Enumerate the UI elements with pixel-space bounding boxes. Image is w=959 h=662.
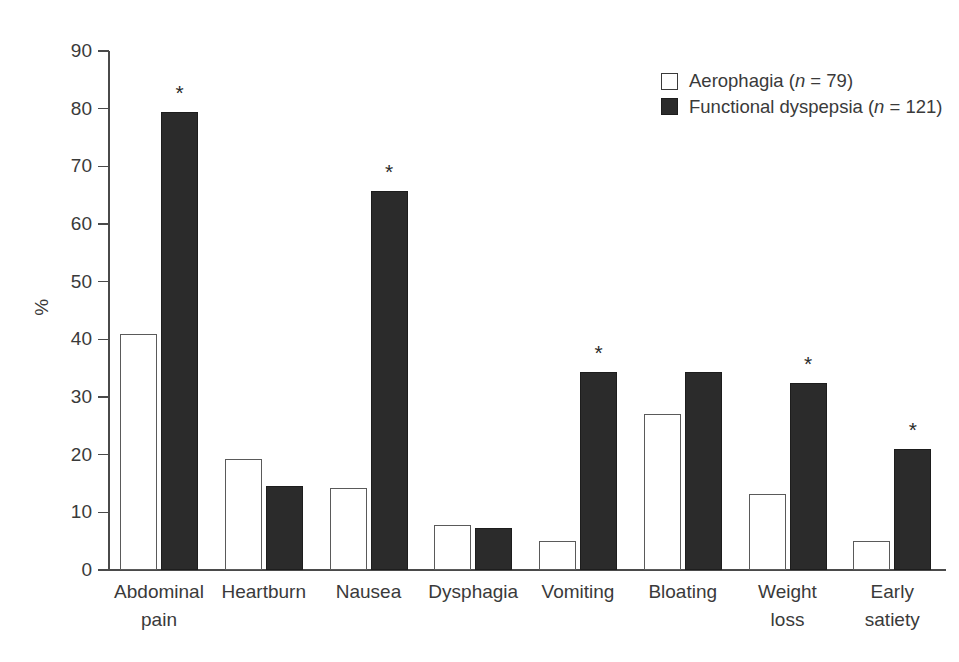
x-tick-label-line1: Early — [871, 581, 914, 602]
legend-swatch-filled-icon — [661, 98, 678, 115]
y-tick-label: 50 — [46, 272, 92, 291]
bar-group — [225, 51, 318, 570]
legend-n-symbol: n — [795, 70, 805, 91]
plot-area: ***** — [108, 51, 946, 570]
y-tick-label: 40 — [46, 329, 92, 348]
significance-asterisk: * — [371, 161, 408, 182]
legend-n-value: = 121) — [884, 96, 942, 117]
bar-functional-dyspepsia[interactable] — [580, 372, 617, 570]
bar-group: * — [539, 51, 632, 570]
legend-n-symbol: n — [874, 96, 884, 117]
legend-series-name: Aerophagia ( — [689, 70, 795, 91]
legend-label: Functional dyspepsia (n = 121) — [689, 98, 943, 117]
bar-aerophagia[interactable] — [330, 488, 367, 570]
bar-aerophagia[interactable] — [120, 334, 157, 570]
legend-swatch-open-icon — [661, 73, 678, 90]
bar-aerophagia[interactable] — [225, 459, 262, 570]
significance-asterisk: * — [580, 342, 617, 363]
bar-functional-dyspepsia[interactable] — [371, 191, 408, 570]
significance-asterisk: * — [894, 419, 931, 440]
chart-legend: Aerophagia (n = 79)Functional dyspepsia … — [661, 72, 943, 123]
bar-aerophagia[interactable] — [539, 541, 576, 570]
y-tick-label: 90 — [46, 41, 92, 60]
x-tick-label-line2: satiety — [817, 606, 959, 634]
bar-aerophagia[interactable] — [434, 525, 471, 570]
significance-asterisk: * — [161, 82, 198, 103]
x-tick-label-line1: Weight — [758, 581, 817, 602]
legend-item[interactable]: Aerophagia (n = 79) — [661, 72, 943, 91]
bar-functional-dyspepsia[interactable] — [685, 372, 722, 570]
bar-group — [434, 51, 527, 570]
bar-functional-dyspepsia[interactable] — [475, 528, 512, 570]
x-tick-label-line1: Bloating — [648, 581, 717, 602]
legend-item[interactable]: Functional dyspepsia (n = 121) — [661, 98, 943, 117]
bar-chart-figure: % 0102030405060708090 ***** Abdominalpai… — [0, 0, 959, 662]
x-tick-label-line2: pain — [84, 606, 234, 634]
bar-functional-dyspepsia[interactable] — [894, 449, 931, 570]
x-tick-label: Earlysatiety — [817, 578, 959, 633]
bar-group — [644, 51, 737, 570]
bar-aerophagia[interactable] — [749, 494, 786, 570]
bar-aerophagia[interactable] — [853, 541, 890, 570]
y-tick-label: 10 — [46, 502, 92, 521]
bar-functional-dyspepsia[interactable] — [161, 112, 198, 570]
legend-series-name: Functional dyspepsia ( — [689, 96, 874, 117]
y-tick-label: 60 — [46, 214, 92, 233]
bar-aerophagia[interactable] — [644, 414, 681, 570]
bar-group: * — [120, 51, 213, 570]
legend-label: Aerophagia (n = 79) — [689, 72, 853, 91]
y-tick-label: 30 — [46, 387, 92, 406]
significance-asterisk: * — [790, 353, 827, 374]
y-tick-label: 80 — [46, 99, 92, 118]
y-tick-label: 70 — [46, 156, 92, 175]
x-tick-label-line1: Nausea — [336, 581, 402, 602]
bar-group: * — [853, 51, 946, 570]
bar-functional-dyspepsia[interactable] — [790, 383, 827, 570]
bar-group: * — [330, 51, 423, 570]
y-tick-label: 0 — [46, 560, 92, 579]
bar-group: * — [749, 51, 842, 570]
legend-n-value: = 79) — [805, 70, 853, 91]
y-axis-title: % — [31, 287, 53, 327]
bar-functional-dyspepsia[interactable] — [266, 486, 303, 570]
x-tick-label-line1: Vomiting — [542, 581, 615, 602]
y-tick-label: 20 — [46, 445, 92, 464]
